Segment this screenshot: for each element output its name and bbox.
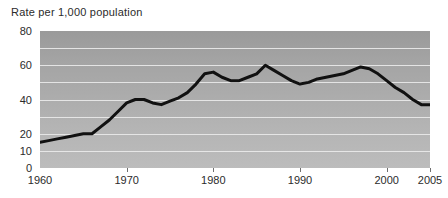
x-tick-label: 1980	[201, 175, 225, 186]
y-tick-label: 40	[20, 94, 32, 105]
y-tick-label: 10	[20, 145, 32, 156]
y-tick-label: 20	[20, 128, 32, 139]
x-tick-label: 1960	[28, 175, 52, 186]
y-axis-ticks: 01020406080	[0, 31, 36, 168]
x-tick-mark	[213, 168, 214, 172]
y-tick-label: 80	[20, 26, 32, 37]
chart-figure: Rate per 1,000 population 01020406080 19…	[0, 0, 448, 198]
plot-area	[40, 31, 430, 168]
x-tick-label: 1990	[288, 175, 312, 186]
x-tick-mark	[387, 168, 388, 172]
x-tick-mark	[300, 168, 301, 172]
chart-axis-title: Rate per 1,000 population	[11, 6, 143, 18]
x-tick-mark	[430, 168, 431, 172]
data-line-svg	[40, 31, 430, 168]
y-tick-label: 0	[26, 163, 32, 174]
data-line	[40, 65, 430, 142]
x-tick-mark	[127, 168, 128, 172]
x-axis-ticks: 196019701980199020002005	[40, 168, 430, 198]
x-tick-label: 2005	[418, 175, 442, 186]
y-tick-label: 60	[20, 60, 32, 71]
x-tick-label: 2000	[374, 175, 398, 186]
x-tick-label: 1970	[114, 175, 138, 186]
